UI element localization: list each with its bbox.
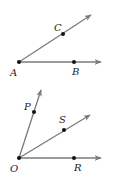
figure-angle-o: O P S R bbox=[10, 90, 101, 174]
point-b bbox=[72, 60, 76, 64]
label-b: B bbox=[71, 66, 79, 77]
point-o bbox=[17, 156, 21, 160]
point-r bbox=[72, 156, 76, 160]
figure-angle-a: A B C bbox=[9, 15, 101, 78]
label-c: C bbox=[54, 22, 62, 33]
point-p bbox=[32, 110, 36, 114]
label-o: O bbox=[10, 163, 18, 174]
label-a: A bbox=[9, 67, 17, 78]
label-r: R bbox=[73, 162, 82, 173]
ray-os bbox=[19, 115, 90, 158]
point-a bbox=[17, 60, 21, 64]
point-s bbox=[62, 128, 66, 132]
label-s: S bbox=[59, 114, 66, 125]
label-p: P bbox=[23, 101, 31, 112]
geometry-diagram: A B C O P S R bbox=[0, 0, 114, 178]
